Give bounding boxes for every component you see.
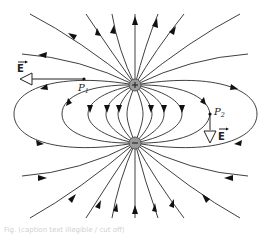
- e-label-p1: E: [17, 63, 24, 74]
- dipole-field-diagram: P1 E P2 E: [0, 0, 267, 236]
- positive-charge: [129, 79, 141, 91]
- point-p2: P2 E: [204, 106, 229, 143]
- figure-caption: Fig. (caption text illegible / cut off): [4, 226, 266, 234]
- e-vector-arrowhead-p2: [204, 131, 216, 143]
- e-label-p2: E: [218, 131, 225, 142]
- p1-label: P1: [77, 82, 89, 95]
- negative-charge: [129, 137, 141, 149]
- p2-label: P2: [213, 106, 225, 119]
- point-p1: P1 E: [17, 61, 89, 96]
- e-vector-arrowhead-p1: [20, 73, 32, 85]
